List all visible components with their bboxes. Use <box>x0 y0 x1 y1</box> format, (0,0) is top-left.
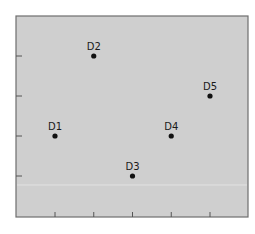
point-marker <box>169 133 174 138</box>
point-label: D5 <box>203 81 217 92</box>
point-label: D1 <box>48 121 62 132</box>
point-marker <box>207 93 212 98</box>
point-label: D3 <box>125 161 139 172</box>
point-marker <box>52 133 57 138</box>
point-marker <box>130 173 135 178</box>
point-label: D2 <box>87 41 101 52</box>
point-label: D4 <box>164 121 178 132</box>
plot-area <box>16 16 248 217</box>
point-marker <box>91 53 96 58</box>
scatter-chart: D1D2D3D4D5 <box>0 0 255 234</box>
